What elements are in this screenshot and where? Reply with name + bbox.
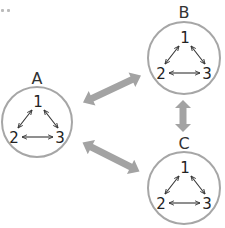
- node-2: 2: [9, 129, 19, 147]
- node-2: 2: [156, 195, 166, 213]
- group-c: C 1 2 3: [148, 134, 220, 224]
- group-a: A 1 2 3: [2, 69, 72, 157]
- group-b: B 1 2 3: [148, 3, 220, 94]
- arrow-b-c: [175, 100, 191, 132]
- node-3: 3: [55, 129, 65, 147]
- node-1: 1: [180, 29, 190, 47]
- node-1: 1: [33, 93, 43, 111]
- arrow-a-c: [79, 135, 143, 178]
- node-3: 3: [202, 195, 212, 213]
- node-1: 1: [180, 159, 190, 177]
- arrow-a-b: [80, 68, 145, 110]
- group-label-c: C: [178, 134, 189, 153]
- diagram-canvas: A 1 2 3 B 1 2 3 C 1 2 3: [0, 0, 225, 228]
- node-3: 3: [202, 65, 212, 83]
- group-label-b: B: [179, 3, 190, 22]
- group-label-a: A: [32, 69, 43, 88]
- node-2: 2: [156, 65, 166, 83]
